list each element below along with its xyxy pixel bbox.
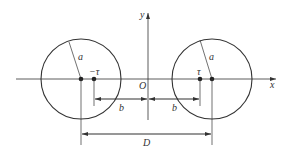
right-b-dimension: b [149, 99, 199, 113]
left-b-dimension: b [95, 99, 147, 113]
D-dimension: D [82, 134, 211, 148]
diagram-canvas: x y O a −τ a τ b b [0, 0, 293, 159]
right-radius-label: a [209, 51, 214, 62]
two-cylinder-diagram: x y O a −τ a τ b b [0, 0, 293, 159]
origin-label: O [139, 80, 146, 91]
D-label: D [142, 137, 151, 148]
left-cylinder: a −τ [41, 39, 121, 145]
right-charge-label: τ [197, 66, 201, 77]
right-cylinder: a τ [172, 39, 252, 145]
right-b-label: b [172, 102, 177, 113]
left-b-label: b [119, 102, 124, 113]
y-axis: y O [139, 9, 148, 120]
left-charge-label: −τ [89, 66, 100, 77]
y-axis-label: y [139, 9, 145, 20]
left-radius-label: a [78, 51, 83, 62]
x-axis-label: x [269, 79, 275, 90]
